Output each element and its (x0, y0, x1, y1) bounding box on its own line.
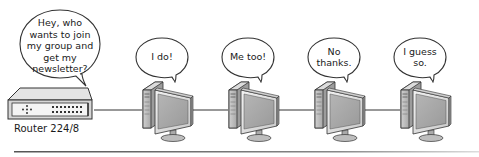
computer-4-speech-text: I guess so. (399, 43, 441, 71)
computer-2-icon (229, 82, 279, 142)
network-diagram: Hey, who wants to join my group and get … (0, 0, 479, 157)
router-speech-text: Hey, who wants to join my group and get … (26, 22, 94, 70)
bottom-rule (14, 151, 479, 153)
router-label: Router 224/8 (14, 123, 79, 134)
computer-3-icon (315, 82, 365, 142)
computer-1-icon (143, 82, 193, 142)
computer-1-speech-text: I do! (140, 44, 184, 70)
computer-4-icon (401, 82, 451, 142)
computer-2-speech-text: Me too! (224, 44, 272, 70)
router-icon (8, 88, 92, 119)
computer-3-speech-text: No thanks. (313, 43, 355, 71)
